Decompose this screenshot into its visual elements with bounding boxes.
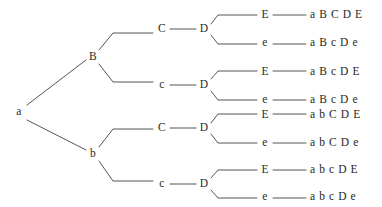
n-D2: D [200,79,209,91]
n-E4: E [261,164,268,176]
edge-root-B [27,60,86,105]
leaf-6: a b C D e [310,137,359,149]
edge-B-c1 [99,64,153,82]
leaf-8: a b c D e [310,191,356,203]
edge-D4-e4 [211,190,257,198]
n-c2: c [159,178,164,190]
leaf-5: a b C D E [310,109,361,121]
n-C2: C [158,122,166,134]
n-e3: e [262,137,267,149]
edge-b-c2 [99,161,153,181]
n-E3: E [261,109,268,121]
node-root: a [16,106,21,118]
n-D4: D [200,178,209,190]
edge-D3-e3 [211,134,257,143]
leaf-3: a B c D E [310,66,360,78]
edge-D4-E4 [211,170,257,178]
leaf-1: a B C D E [310,9,363,21]
n-e2: e [262,94,267,106]
edge-D2-E2 [211,71,257,79]
leaf-7: a b c D E [310,164,358,176]
n-D1: D [200,23,209,35]
n-c1: c [159,79,164,91]
n-D3: D [200,122,209,134]
n-E1: E [261,9,268,21]
edge-root-b [27,120,86,150]
n-e1: e [262,37,267,49]
edge-b-C2 [99,129,153,147]
edge-D2-e2 [211,91,257,100]
binary-tree-diagram: aBbCcCcDDDDEeEeEeEe a B C D Ea B c D ea … [0,0,382,207]
n-e4: e [262,191,267,203]
edge-D1-E1 [211,15,257,24]
n-C1: C [158,23,166,35]
edge-D1-e1 [211,35,257,44]
leaf-2: a B c D e [310,37,358,49]
n-E2: E [261,66,268,78]
edge-D3-E3 [211,114,257,123]
leaf-4: a B c D e [310,94,358,106]
n-b: b [90,148,96,160]
n-B: B [89,51,97,63]
edge-B-C1 [99,33,153,50]
